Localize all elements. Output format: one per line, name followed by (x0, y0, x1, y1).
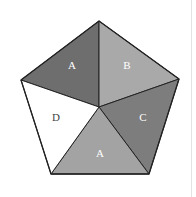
label-region-bottom: A (96, 147, 104, 159)
label-region-top-right: B (123, 59, 130, 71)
label-region-left: D (52, 111, 60, 123)
pentagon-svg: A B C A D (0, 0, 196, 197)
pentagon-figure: A B C A D (0, 0, 196, 197)
page-edge-divider (191, 0, 192, 197)
label-region-top-left: A (68, 59, 76, 71)
label-region-right: C (139, 111, 146, 123)
